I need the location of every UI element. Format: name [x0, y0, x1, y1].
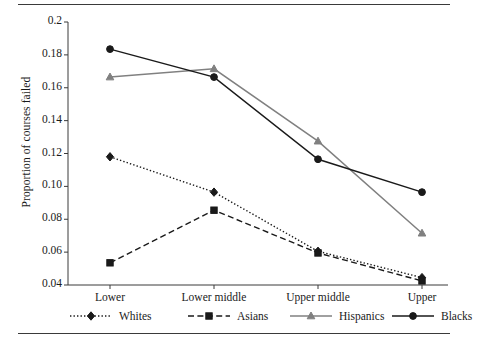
data-point-square — [419, 278, 425, 284]
series-line-blacks — [110, 49, 422, 192]
data-point-diamond — [210, 188, 217, 196]
legend-swatch-diamond — [70, 310, 112, 322]
data-point-circle — [107, 46, 114, 53]
y-axis-tick-label: 0.12 — [16, 146, 62, 158]
x-axis-tick-label: Upper middle — [258, 291, 378, 303]
circle-marker — [419, 189, 426, 196]
x-axis-tick-label: Lower — [50, 291, 170, 303]
circle-marker — [410, 313, 417, 320]
data-point-triangle — [314, 137, 322, 144]
data-point-triangle — [210, 65, 218, 72]
y-axis-tick-label: 0.16 — [16, 80, 62, 92]
data-point-square — [315, 250, 321, 256]
triangle-marker — [210, 65, 218, 72]
legend-item-blacks[interactable]: Blacks — [392, 306, 472, 326]
data-point-square — [107, 260, 113, 266]
diamond-marker — [87, 312, 94, 320]
x-axis-tick-label: Lower middle — [154, 291, 274, 303]
data-point-square — [206, 313, 212, 319]
circle-marker — [211, 74, 218, 81]
diamond-marker — [106, 153, 113, 161]
data-point-circle — [315, 156, 322, 163]
series-line-hispanics — [110, 69, 422, 233]
data-point-circle — [211, 74, 218, 81]
chart-legend: WhitesAsiansHispanicsBlacks — [0, 306, 455, 326]
circle-marker — [315, 156, 322, 163]
legend-swatch-square — [188, 310, 230, 322]
y-axis-tick-label: 0.06 — [16, 244, 62, 256]
square-marker — [315, 250, 321, 256]
triangle-marker — [314, 137, 322, 144]
y-axis-tick-label: 0.14 — [16, 113, 62, 125]
square-marker — [206, 313, 212, 319]
diamond-marker — [210, 188, 217, 196]
series-line-asians — [110, 210, 422, 281]
legend-item-whites[interactable]: Whites — [70, 306, 152, 326]
data-point-diamond — [87, 312, 94, 320]
y-axis-tick-label: 0.08 — [16, 211, 62, 223]
legend-swatch-circle — [392, 310, 434, 322]
legend-item-asians[interactable]: Asians — [188, 306, 268, 326]
y-axis-tick-label: 0.10 — [16, 178, 62, 190]
y-axis-tick-label: 0.18 — [16, 47, 62, 59]
y-axis-tick-label: 0.04 — [16, 277, 62, 289]
data-point-square — [211, 207, 217, 213]
circle-marker — [107, 46, 114, 53]
legend-item-hispanics[interactable]: Hispanics — [290, 306, 384, 326]
legend-label: Hispanics — [336, 310, 384, 322]
data-point-circle — [410, 313, 417, 320]
legend-label: Asians — [234, 310, 268, 322]
data-point-diamond — [106, 153, 113, 161]
square-marker — [419, 278, 425, 284]
data-point-circle — [419, 189, 426, 196]
square-marker — [211, 207, 217, 213]
legend-label: Blacks — [438, 310, 472, 322]
legend-label: Whites — [116, 310, 152, 322]
square-marker — [107, 260, 113, 266]
x-axis-tick-label: Upper — [362, 291, 477, 303]
legend-swatch-triangle — [290, 310, 332, 322]
series-line-whites — [110, 157, 422, 278]
y-axis-tick-label: 0.2 — [16, 14, 62, 26]
